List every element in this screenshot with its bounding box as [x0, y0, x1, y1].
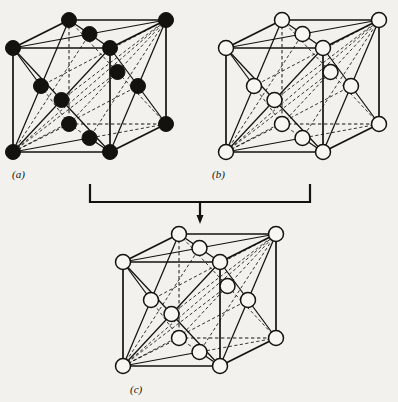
- bond: [123, 300, 151, 366]
- cube-edge: [226, 20, 282, 48]
- cube-edge: [13, 20, 69, 48]
- atom-filled-face-centre: [82, 27, 97, 42]
- atom-open-corner: [275, 117, 290, 132]
- atom-filled-corner: [103, 41, 118, 56]
- hidden-bond: [200, 338, 277, 352]
- bond: [41, 20, 69, 86]
- atom-open-face-centre: [267, 93, 282, 108]
- bond: [90, 20, 167, 34]
- hidden-bond: [90, 20, 167, 138]
- atom-open-corner: [219, 145, 234, 160]
- connector-arrow-head: [197, 215, 204, 224]
- hidden-bond: [123, 286, 228, 366]
- atom-open-face-centre: [247, 79, 262, 94]
- hidden-bond: [123, 248, 200, 366]
- hidden-bond: [62, 20, 167, 100]
- atom-open-face-centre: [192, 241, 207, 256]
- cube-edge: [123, 234, 179, 262]
- atom-filled-face-centre: [131, 79, 146, 94]
- atom-open-corner: [219, 41, 234, 56]
- atom-open-corner: [213, 255, 228, 270]
- atom-open-corner: [316, 41, 331, 56]
- lattice-panel-c: [116, 227, 284, 374]
- atom-open-corner: [316, 145, 331, 160]
- lattice-panel-b: [219, 13, 387, 160]
- atom-open-face-centre: [164, 307, 179, 322]
- bond: [323, 86, 351, 152]
- hidden-bond: [226, 72, 331, 152]
- atom-filled-corner: [62, 117, 77, 132]
- atom-open-face-centre: [344, 79, 359, 94]
- atom-filled-corner: [6, 41, 21, 56]
- bond: [13, 34, 90, 48]
- atom-open-corner: [372, 117, 387, 132]
- panels-layer: [6, 13, 387, 374]
- bond: [13, 86, 41, 152]
- atom-filled-corner: [103, 145, 118, 160]
- atom-open-corner: [116, 359, 131, 374]
- atom-open-face-centre: [144, 293, 159, 308]
- atom-open-face-centre: [295, 27, 310, 42]
- atom-filled-corner: [6, 145, 21, 160]
- bond: [220, 300, 248, 366]
- atom-open-corner: [269, 227, 284, 242]
- atom-filled-face-centre: [34, 79, 49, 94]
- hidden-bond: [275, 20, 380, 100]
- cube-edge: [220, 338, 276, 366]
- hidden-bond: [303, 20, 380, 138]
- connector-bracket: [90, 184, 310, 202]
- bond: [110, 86, 138, 152]
- atom-open-corner: [116, 255, 131, 270]
- atom-open-face-centre: [295, 131, 310, 146]
- connector-layer: [90, 184, 310, 224]
- cube-edge: [323, 124, 379, 152]
- atom-filled-corner: [159, 13, 174, 28]
- bond: [226, 86, 254, 152]
- atom-open-face-centre: [220, 279, 235, 294]
- hidden-bond: [13, 34, 90, 152]
- bond: [303, 20, 380, 34]
- atom-open-corner: [269, 331, 284, 346]
- lattice-panel-a: [6, 13, 174, 160]
- atom-open-corner: [172, 331, 187, 346]
- atom-filled-face-centre: [82, 131, 97, 146]
- atom-open-face-centre: [192, 345, 207, 360]
- atom-open-face-centre: [323, 65, 338, 80]
- bond: [138, 20, 166, 86]
- panel-label-c: (c): [130, 383, 143, 396]
- hidden-bond: [13, 72, 118, 152]
- atom-open-corner: [275, 13, 290, 28]
- hidden-bond: [226, 34, 303, 152]
- atom-filled-face-centre: [54, 93, 69, 108]
- atom-filled-face-centre: [110, 65, 125, 80]
- figure-root: (a)(b)(c): [0, 0, 398, 402]
- atom-filled-corner: [159, 117, 174, 132]
- hidden-bond: [303, 124, 380, 138]
- atom-open-corner: [372, 13, 387, 28]
- panel-label-b: (b): [212, 168, 225, 181]
- bond: [226, 34, 303, 48]
- hidden-bond: [172, 234, 277, 314]
- bond: [248, 234, 276, 300]
- bond: [254, 20, 282, 86]
- lattice-figure-canvas: (a)(b)(c): [0, 0, 398, 402]
- atom-open-face-centre: [241, 293, 256, 308]
- hidden-bond: [200, 234, 277, 352]
- bond: [123, 248, 200, 262]
- bond: [151, 234, 179, 300]
- atom-open-corner: [172, 227, 187, 242]
- hidden-bond: [90, 124, 167, 138]
- atom-filled-corner: [62, 13, 77, 28]
- atom-open-corner: [213, 359, 228, 374]
- cube-edge: [110, 124, 166, 152]
- panel-label-a: (a): [12, 168, 25, 181]
- bond: [200, 234, 277, 248]
- bond: [351, 20, 379, 86]
